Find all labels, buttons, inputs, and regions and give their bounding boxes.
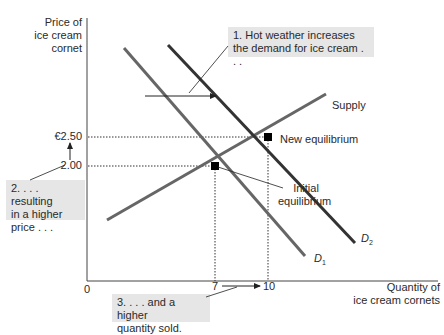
d1-letter: D xyxy=(314,252,322,264)
x-axis-label-1: Quantity of xyxy=(330,281,440,294)
initial-eq-line1: Initial xyxy=(278,182,324,195)
d2-letter: D xyxy=(361,232,369,244)
supply-label: Supply xyxy=(332,99,366,112)
origin-label: 0 xyxy=(84,283,90,296)
initial-equilibrium-label: Initial equilibrium xyxy=(278,182,324,208)
x-tick-old-qty: 7 xyxy=(212,280,218,293)
d1-sub: 1 xyxy=(322,259,326,266)
d1-label: D1 xyxy=(314,252,326,269)
y-axis-label-1: Price of xyxy=(26,16,82,29)
guide-lines xyxy=(88,137,268,281)
d2-sub: 2 xyxy=(369,239,373,246)
demand-curve-d1 xyxy=(124,48,305,256)
y-axis-label: Price of ice cream cornet xyxy=(26,16,82,55)
callout-3-leader xyxy=(206,287,237,297)
new-equilibrium-point xyxy=(264,133,272,141)
initial-eq-line2: equilibrium xyxy=(278,195,324,208)
x-tick-new-qty: 10 xyxy=(263,280,275,293)
y-tick-new-price: €2.50 xyxy=(40,130,82,143)
x-axis-label-2: ice cream cornets xyxy=(330,294,440,307)
x-axis-label: Quantity of ice cream cornets xyxy=(330,281,440,307)
y-axis-label-3: cornet xyxy=(26,42,82,55)
initial-equilibrium-point xyxy=(211,162,219,170)
y-axis-label-2: ice cream xyxy=(26,29,82,42)
y-tick-old-price: 2.00 xyxy=(40,159,82,172)
d2-label: D2 xyxy=(361,232,373,249)
new-equilibrium-label: New equilibrium xyxy=(280,133,358,146)
initial-eq-leader xyxy=(218,167,283,188)
